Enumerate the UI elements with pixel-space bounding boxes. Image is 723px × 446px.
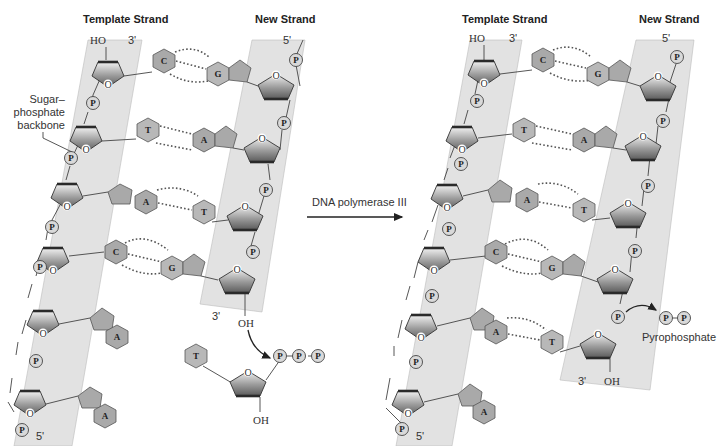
base-ring-pentagon [563, 254, 585, 276]
base-ring-pentagon [183, 254, 205, 276]
ring-oxygen-label: O [82, 144, 89, 155]
template-3prime-label-right: 3' [509, 32, 517, 44]
phosphate-label: P [68, 153, 74, 163]
diagram-canvas: Template Strand New Strand HO 3' 5' Suga… [0, 0, 723, 446]
new-strand-3prime-label: 3' [212, 310, 220, 322]
pyrophosphate-label: Pyrophosphate [642, 331, 716, 343]
phosphate-label: P [33, 356, 39, 366]
hydrogen-bond [538, 183, 578, 194]
phosphate-label: P [681, 313, 687, 323]
ring-oxygen-label: O [39, 328, 46, 339]
ring-oxygen-label: O [639, 131, 646, 142]
ring-oxygen-label: O [624, 198, 631, 209]
base-label: T [549, 337, 555, 347]
ring-oxygen-label: O [244, 367, 251, 378]
hydrogen-bond [553, 47, 590, 56]
phosphate-label: P [674, 52, 680, 62]
phosphate-label: P [399, 424, 405, 434]
ring-oxygen-label: O [49, 265, 56, 276]
phosphate-label: P [19, 425, 25, 435]
hydrogen-bond [160, 126, 192, 134]
backbone-callout-line3: backbone [17, 119, 65, 131]
template-3prime-label: 3' [128, 34, 136, 46]
base-label: C [161, 56, 168, 66]
template-hydroxyl-label-right: HO [469, 32, 485, 44]
ring-oxygen-label: O [417, 332, 424, 343]
hydrogen-bond [502, 266, 546, 274]
base-label: C [493, 247, 500, 257]
ring-oxygen-label: O [654, 71, 661, 82]
base-label: T [193, 351, 199, 361]
template-strand-label-right: Template Strand [462, 13, 547, 25]
backbone-callout-line2: phosphate [14, 106, 65, 118]
incoming-nucleotide: T O OH P P P [185, 330, 325, 426]
template-5prime-label-right: 5' [416, 430, 424, 442]
hydrogen-bond [539, 202, 572, 208]
hydrogen-bond [122, 265, 166, 274]
new-strand-5prime-label: 5' [283, 34, 291, 46]
hydrogen-bond [176, 61, 206, 69]
hydrogen-bond [125, 239, 168, 250]
base-label: G [594, 69, 601, 79]
ring-oxygen-label: O [233, 264, 240, 275]
ring-oxygen-label: O [258, 133, 265, 144]
covalent-bond-line [203, 366, 232, 383]
ring-oxygen-label: O [443, 202, 450, 213]
phosphate-label: P [315, 351, 321, 361]
base-label: T [581, 205, 587, 215]
base-label: A [581, 135, 588, 145]
new-strand-3prime-label-right: 3' [578, 375, 586, 387]
backbone-callout-line1: Sugar– [30, 93, 66, 105]
unpaired-base: A [102, 411, 109, 421]
ring-oxygen-label: O [241, 201, 248, 212]
ring-oxygen-label: O [404, 408, 411, 419]
base-label: A [201, 135, 208, 145]
phosphate-label: P [277, 351, 283, 361]
base-label: C [113, 247, 120, 257]
new-strand-hydroxyl-label: OH [238, 317, 254, 329]
phosphate-label: P [281, 118, 287, 128]
phosphate-label: P [660, 116, 666, 126]
base-label: A [493, 327, 500, 337]
phosphate-label: P [413, 357, 419, 367]
ring-oxygen-label: O [272, 70, 279, 81]
base-ring-pentagon [215, 126, 237, 148]
hydrogen-bond [536, 126, 572, 134]
hydrogen-bond [508, 254, 542, 262]
base-label: G [168, 263, 175, 273]
phosphate-label: P [263, 185, 269, 195]
phosphate-label: P [293, 55, 299, 65]
phosphate-label: P [632, 246, 638, 256]
ring-oxygen-label: O [63, 201, 70, 212]
hydrogen-bond [156, 143, 192, 150]
new-strand-label-right: New Strand [639, 13, 700, 25]
new-strand-hydroxyl-label-right: OH [604, 375, 620, 387]
hydrogen-bond [508, 334, 540, 340]
hydrogen-bond [170, 74, 212, 82]
ring-oxygen-label: O [430, 265, 437, 276]
phosphate-label: P [663, 313, 669, 323]
base-label: T [145, 125, 151, 135]
template-backbone-band-right [396, 40, 522, 446]
ring-oxygen-label: O [611, 264, 618, 275]
hydrogen-bond [158, 203, 192, 210]
new-strand-5prime-label-right: 5' [662, 32, 670, 44]
phosphate-label: P [458, 159, 464, 169]
incoming-hydroxyl-label: OH [253, 414, 269, 426]
hydrogen-bond [532, 143, 572, 150]
base-label: A [143, 197, 150, 207]
phosphate-label: P [615, 312, 621, 322]
base-ring-pentagon [595, 126, 617, 148]
template-hydroxyl-label: HO [90, 34, 106, 46]
callout-leader-line [43, 132, 72, 152]
hydrogen-bond [507, 318, 546, 330]
phosphate-label: P [645, 181, 651, 191]
unpaired-base: A [114, 332, 121, 342]
hydrogen-bond [128, 254, 162, 262]
base-label: T [521, 125, 527, 135]
phosphate-label: P [49, 222, 55, 232]
base-label: G [214, 69, 221, 79]
ring-oxygen-label: O [594, 329, 601, 340]
phosphate-label: P [90, 98, 96, 108]
left-panel: Template Strand New Strand HO 3' 5' Suga… [8, 13, 325, 446]
